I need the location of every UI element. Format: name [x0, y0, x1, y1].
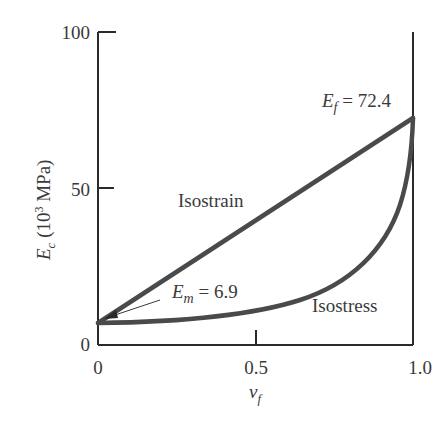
y-axis-label: Ec (103 MPa)	[32, 160, 58, 261]
chart-canvas: 100 50 0 0 0.5 1.0 vf Ec (103 MPa) Isost…	[0, 0, 448, 423]
y-tick-label-100: 100	[62, 22, 91, 43]
em-arrow-head-icon	[104, 310, 118, 319]
x-tick-label-0.5: 0.5	[244, 357, 268, 378]
y-tick-label-0: 0	[81, 334, 91, 355]
isostrain-line	[98, 118, 413, 323]
em-annotation: Em = 6.9	[171, 281, 238, 306]
ef-annotation: Ef = 72.4	[321, 90, 391, 115]
x-tick-label-1.0: 1.0	[408, 357, 432, 378]
isostress-label: Isostress	[312, 295, 377, 316]
isostrain-label: Isostrain	[178, 190, 244, 211]
x-axis-label: vf	[249, 381, 263, 406]
x-tick-label-0: 0	[93, 357, 103, 378]
y-tick-label-50: 50	[71, 179, 90, 200]
